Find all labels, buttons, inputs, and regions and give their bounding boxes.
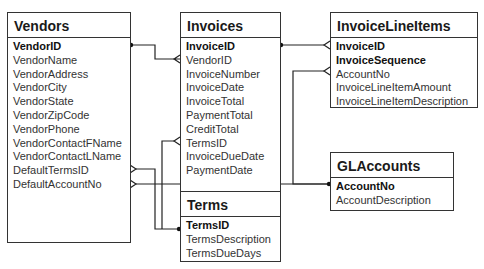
table-column: DefaultTermsID	[13, 164, 125, 178]
rel-invoices-terms	[162, 141, 174, 229]
table-column: AccountNo	[336, 68, 472, 82]
primary-key-column: InvoiceID	[336, 40, 472, 54]
table-column: InvoiceDueDate	[186, 150, 275, 164]
table-glaccounts[interactable]: GLAccounts AccountNoAccountDescription	[330, 152, 454, 211]
table-column: DefaultAccountNo	[13, 178, 125, 192]
table-title: Invoices	[181, 13, 280, 38]
table-column: InvoiceNumber	[186, 68, 275, 82]
table-column: VendorPhone	[13, 123, 125, 137]
table-column: VendorContactFName	[13, 137, 125, 151]
table-vendors[interactable]: Vendors VendorIDVendorNameVendorAddressV…	[7, 12, 131, 243]
primary-key-column: TermsID	[186, 219, 275, 233]
table-column: VendorName	[13, 54, 125, 68]
table-title: Terms	[181, 192, 280, 217]
table-column: PaymentTotal	[186, 109, 275, 123]
rel-vendors-invoices	[130, 45, 174, 59]
primary-key-column: VendorID	[13, 40, 125, 54]
table-column: VendorCity	[13, 81, 125, 95]
column-list: InvoiceIDInvoiceSequenceAccountNoInvoice…	[331, 38, 477, 111]
column-list: VendorIDVendorNameVendorAddressVendorCit…	[8, 38, 130, 194]
table-title: Vendors	[8, 13, 130, 38]
table-column: AccountDescription	[336, 194, 448, 208]
table-title: InvoiceLineItems	[331, 13, 477, 38]
table-column: VendorZipCode	[13, 109, 125, 123]
table-column: VendorState	[13, 95, 125, 109]
table-column: TermsDescription	[186, 233, 275, 247]
table-column: CreditTotal	[186, 123, 275, 137]
table-column: VendorAddress	[13, 68, 125, 82]
table-column: InvoiceLineItemAmount	[336, 81, 472, 95]
table-column: VendorID	[186, 54, 275, 68]
rel-glaccounts-lineitems	[293, 71, 330, 184]
table-invoices[interactable]: Invoices InvoiceIDVendorIDInvoiceNumberI…	[180, 12, 281, 205]
primary-key-column: InvoiceID	[186, 40, 275, 54]
column-list: AccountNoAccountDescription	[331, 178, 453, 210]
table-column: PaymentDate	[186, 164, 275, 178]
table-column: TermsDueDays	[186, 247, 275, 261]
column-list: TermsIDTermsDescriptionTermsDueDays	[181, 217, 280, 262]
primary-key-column: AccountNo	[336, 180, 448, 194]
table-column: InvoiceDate	[186, 81, 275, 95]
table-column: TermsID	[186, 137, 275, 151]
table-terms[interactable]: Terms TermsIDTermsDescriptionTermsDueDay…	[180, 191, 281, 262]
table-column: InvoiceLineItemDescription	[336, 95, 472, 109]
table-invoicelineitems[interactable]: InvoiceLineItems InvoiceIDInvoiceSequenc…	[330, 12, 478, 108]
table-column: InvoiceTotal	[186, 95, 275, 109]
table-title: GLAccounts	[331, 153, 453, 178]
primary-key-column: InvoiceSequence	[336, 54, 472, 68]
column-list: InvoiceIDVendorIDInvoiceNumberInvoiceDat…	[181, 38, 280, 180]
rel-vendors-terms	[136, 169, 180, 229]
table-column: VendorContactLName	[13, 150, 125, 164]
